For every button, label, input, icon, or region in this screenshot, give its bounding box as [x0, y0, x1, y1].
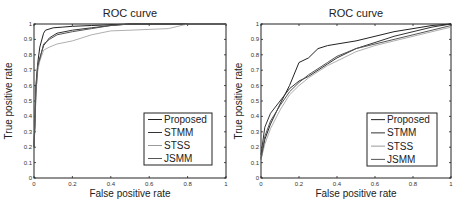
- x-tick-label: 0.2: [68, 181, 77, 187]
- chart-title: ROC curve: [103, 7, 157, 19]
- legend-label: STMM: [387, 127, 416, 138]
- y-tick-label: 0.1: [251, 160, 260, 166]
- y-tick-label: 0.3: [24, 129, 33, 135]
- y-tick-label: 1: [29, 21, 33, 27]
- y-tick-label: 0.6: [251, 83, 260, 89]
- x-tick-label: 0.8: [183, 181, 192, 187]
- y-tick-label: 0.7: [24, 67, 33, 73]
- x-tick-label: 0.8: [409, 181, 418, 187]
- legend-label: Proposed: [387, 114, 430, 125]
- x-axis-label: False positive rate: [315, 188, 397, 199]
- y-tick-label: 0.2: [24, 144, 33, 150]
- x-tick-label: 0: [259, 181, 263, 187]
- x-tick-label: 1: [224, 181, 228, 187]
- legend-label: Proposed: [164, 114, 207, 125]
- roc-chart-2: ROC curve00.20.40.60.8100.10.20.30.40.50…: [233, 7, 453, 199]
- legend: ProposedSTMMSTSSJSMM: [144, 113, 212, 165]
- y-tick-label: 0.5: [251, 98, 260, 104]
- y-axis-label: True positive rate: [233, 62, 244, 139]
- y-tick-label: 1: [256, 21, 260, 27]
- legend-label: JSMM: [164, 153, 192, 164]
- y-tick-label: 0.9: [24, 36, 33, 42]
- x-tick-label: 0.6: [145, 181, 154, 187]
- legend: ProposedSTMMSTSSJSMM: [367, 113, 437, 166]
- y-tick-label: 0.6: [24, 83, 33, 89]
- legend-label: STSS: [164, 140, 190, 151]
- y-tick-label: 0.5: [24, 98, 33, 104]
- y-tick-label: 0.8: [24, 52, 33, 58]
- x-tick-label: 0: [32, 181, 36, 187]
- y-tick-label: 0.4: [251, 113, 260, 119]
- y-tick-label: 0.4: [24, 113, 33, 119]
- roc-figure: ROC curve00.20.40.60.8100.10.20.30.40.50…: [0, 0, 465, 204]
- legend-label: JSMM: [387, 154, 415, 165]
- y-tick-label: 0.8: [251, 52, 260, 58]
- y-axis-label: True positive rate: [3, 62, 14, 139]
- chart-title: ROC curve: [329, 7, 383, 19]
- x-axis-label: False positive rate: [89, 188, 171, 199]
- y-tick-label: 0.2: [251, 144, 260, 150]
- y-tick-label: 0.7: [251, 67, 260, 73]
- x-tick-label: 1: [449, 181, 453, 187]
- x-tick-label: 0.6: [371, 181, 380, 187]
- x-tick-label: 0.4: [107, 181, 116, 187]
- legend-label: STSS: [387, 141, 413, 152]
- y-tick-label: 0.3: [251, 129, 260, 135]
- y-tick-label: 0.9: [251, 36, 260, 42]
- roc-chart-1: ROC curve00.20.40.60.8100.10.20.30.40.50…: [3, 7, 228, 199]
- y-tick-label: 0.1: [24, 160, 33, 166]
- x-tick-label: 0.2: [295, 181, 304, 187]
- legend-label: STMM: [164, 127, 193, 138]
- x-tick-label: 0.4: [333, 181, 342, 187]
